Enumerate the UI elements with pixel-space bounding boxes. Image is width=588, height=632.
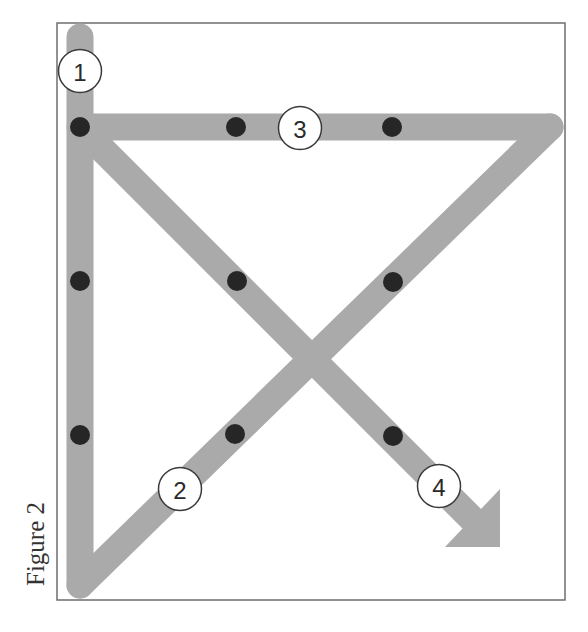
- grid-dot: [227, 271, 247, 291]
- step-label-text: 4: [432, 474, 445, 501]
- step-label-4: 4: [418, 465, 461, 508]
- grid-dot: [225, 424, 245, 444]
- step-label-text: 2: [173, 477, 186, 504]
- step-label-text: 1: [73, 59, 86, 86]
- segment-4-line: [80, 127, 478, 525]
- figure-caption: Figure 2: [23, 502, 48, 586]
- grid-dot: [383, 272, 403, 292]
- step-label-text: 3: [293, 116, 306, 143]
- grid-dot: [70, 117, 90, 137]
- figure-canvas: 1234: [0, 0, 588, 632]
- grid-dot: [226, 117, 246, 137]
- grid-dot: [70, 425, 90, 445]
- grid-dot: [383, 426, 403, 446]
- grid-dot: [70, 271, 90, 291]
- step-label-3: 3: [279, 107, 322, 150]
- step-label-2: 2: [159, 468, 202, 511]
- step-label-1: 1: [59, 50, 102, 93]
- grid-dot: [382, 117, 402, 137]
